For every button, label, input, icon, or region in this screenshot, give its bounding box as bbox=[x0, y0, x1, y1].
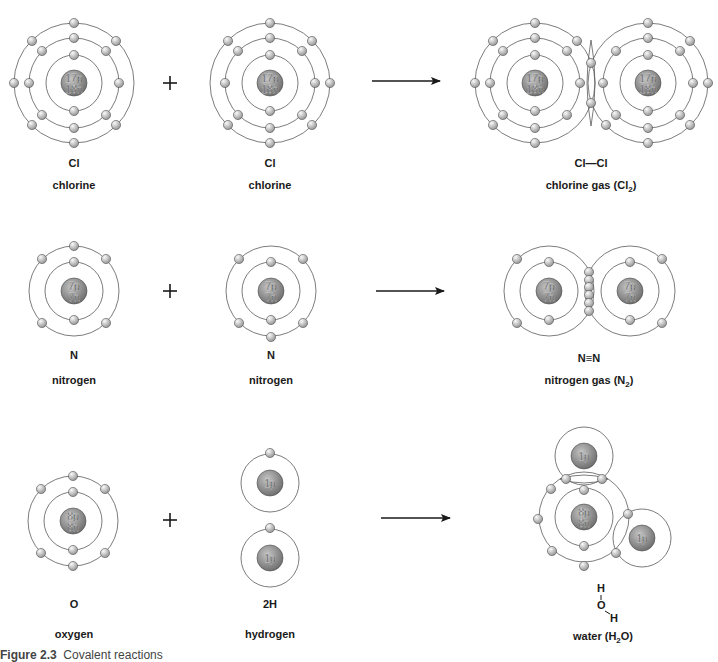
product-name-prefix: water (H bbox=[573, 630, 616, 642]
figure-caption: Figure 2.3 Covalent reactions bbox=[0, 648, 163, 662]
structural-h-right: H bbox=[610, 612, 618, 624]
product-name-suffix: O) bbox=[621, 630, 633, 642]
product-name: water (H2O) bbox=[573, 630, 633, 645]
figure-caption-label: Figure 2.3 bbox=[0, 648, 57, 662]
figure-caption-text: Covalent reactions bbox=[63, 648, 162, 662]
structural-o: O bbox=[597, 599, 606, 611]
